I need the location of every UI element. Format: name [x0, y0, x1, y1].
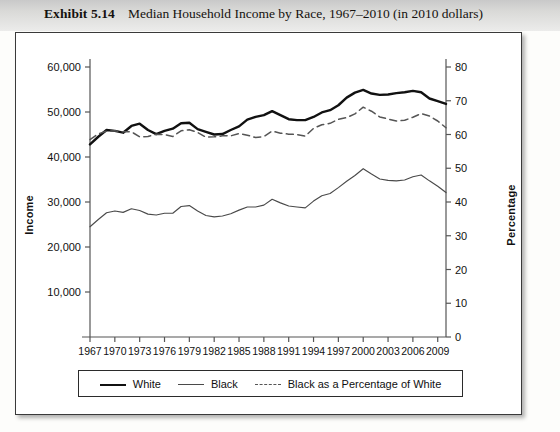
legend-item-ratio: Black as a Percentage of White [255, 378, 441, 390]
legend-item-white: White [100, 378, 161, 390]
legend-item-black: Black [178, 378, 238, 390]
svg-text:1991: 1991 [277, 345, 301, 357]
exhibit-figure: Exhibit 5.14Median Household Income by R… [0, 0, 560, 432]
svg-text:10,000: 10,000 [47, 286, 81, 298]
legend-line-icon-white [100, 379, 126, 389]
legend-line-icon-black [178, 379, 204, 389]
svg-text:1976: 1976 [153, 345, 177, 357]
svg-text:40: 40 [455, 196, 467, 208]
svg-text:1982: 1982 [203, 345, 227, 357]
svg-text:80: 80 [455, 61, 467, 73]
svg-text:50,000: 50,000 [47, 106, 81, 118]
svg-text:1973: 1973 [128, 345, 152, 357]
svg-text:20: 20 [455, 264, 467, 276]
legend-line-icon-ratio [255, 379, 281, 389]
svg-text:60,000: 60,000 [47, 61, 81, 73]
chart-plot-area: 10,00020,00030,00040,00050,00060,0000102… [16, 33, 521, 414]
svg-text:1994: 1994 [302, 345, 326, 357]
exhibit-header-band: Exhibit 5.14Median Household Income by R… [0, 0, 560, 31]
legend-label-ratio: Black as a Percentage of White [288, 378, 441, 390]
svg-text:50: 50 [455, 162, 467, 174]
svg-text:60: 60 [455, 129, 467, 141]
svg-text:40,000: 40,000 [47, 151, 81, 163]
svg-text:1997: 1997 [327, 345, 351, 357]
legend-label-black: Black [211, 378, 238, 390]
svg-text:0: 0 [455, 331, 461, 343]
svg-text:1979: 1979 [178, 345, 202, 357]
svg-text:20,000: 20,000 [47, 241, 81, 253]
y-axis-title: Income [23, 195, 35, 235]
y2-axis-title: Percentage [505, 184, 517, 245]
svg-text:2003: 2003 [376, 345, 400, 357]
legend-label-white: White [133, 378, 161, 390]
svg-text:1967: 1967 [78, 345, 102, 357]
svg-text:1985: 1985 [227, 345, 251, 357]
svg-text:2000: 2000 [352, 345, 376, 357]
svg-text:70: 70 [455, 95, 467, 107]
svg-text:30: 30 [455, 230, 467, 242]
svg-text:1970: 1970 [103, 345, 127, 357]
svg-text:10: 10 [455, 297, 467, 309]
svg-text:2006: 2006 [401, 345, 425, 357]
svg-text:2009: 2009 [426, 345, 450, 357]
exhibit-title: Median Household Income by Race, 1967–20… [128, 6, 483, 21]
series-line-black [90, 169, 446, 227]
chart-frame: 10,00020,00030,00040,00050,00060,0000102… [15, 32, 522, 415]
exhibit-caption: Exhibit 5.14Median Household Income by R… [44, 6, 483, 22]
chart-legend: White Black Black as a Percentage of Whi… [78, 370, 463, 397]
svg-text:1988: 1988 [252, 345, 276, 357]
exhibit-number: Exhibit 5.14 [44, 6, 115, 21]
svg-text:30,000: 30,000 [47, 196, 81, 208]
